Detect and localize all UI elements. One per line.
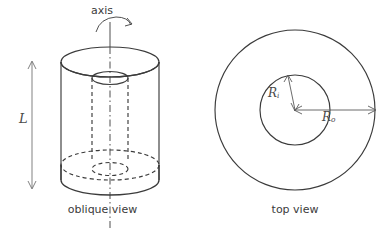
oblique-view-group [28,17,159,228]
length-label: L [19,111,28,126]
figure-container: axis L Ri Ro oblique view top view [0,0,384,245]
rotation-arc [96,17,131,32]
top-view-caption: top view [220,203,370,216]
axis-label: axis [91,4,113,17]
inner-radius-label: Ri [268,86,279,100]
outer-radius-symbol: R [322,110,331,124]
outer-radius-subscript: o [331,115,335,124]
top-view-group [215,30,376,190]
oblique-view-caption: oblique view [0,203,205,216]
outer-radius-label: Ro [322,110,336,124]
inner-radius-symbol: R [268,86,277,100]
inner-radius-subscript: i [277,91,279,100]
